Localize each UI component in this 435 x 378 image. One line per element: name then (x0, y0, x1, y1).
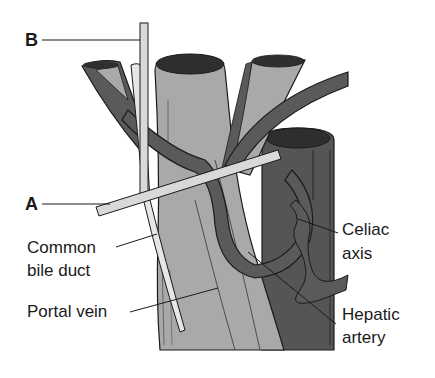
leader-common-bile-duct (116, 234, 157, 247)
label-common-bile-duct-line2: bile duct (27, 261, 90, 281)
label-hepatic-artery-line1: Hepatic (342, 305, 400, 325)
label-a: A (25, 194, 38, 214)
label-celiac-axis-line2: axis (342, 244, 372, 264)
label-b: B (25, 30, 38, 50)
label-portal-vein: Portal vein (27, 302, 107, 322)
label-common-bile-duct-line1: Common (27, 238, 96, 258)
label-hepatic-artery-line2: artery (342, 328, 385, 348)
label-celiac-axis-line1: Celiac (342, 220, 389, 240)
rod-b (140, 23, 148, 198)
